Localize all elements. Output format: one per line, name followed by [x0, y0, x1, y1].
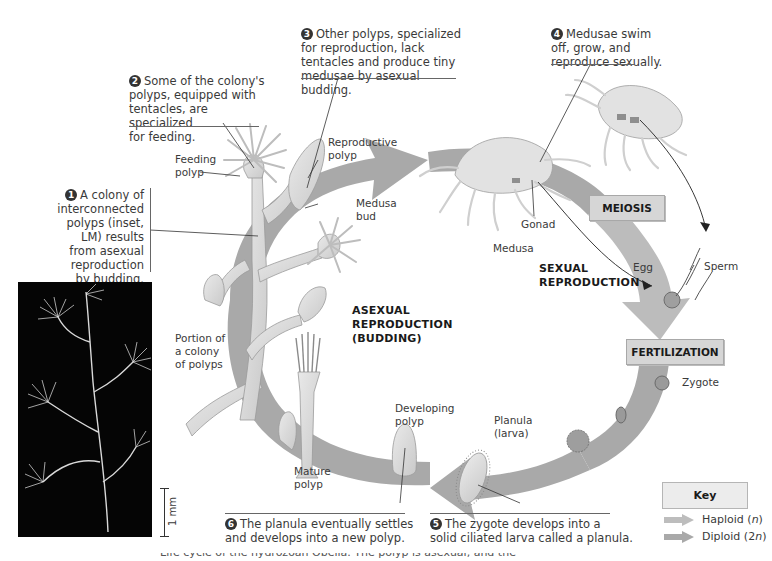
caption-step-3: 3Other polyps, specialized for reproduct… — [301, 27, 471, 97]
colony-micrograph-inset — [18, 282, 152, 537]
figure-caption-partial: Life cycle of the hydrozoan Obelia. The … — [160, 553, 600, 561]
label-medusa-bud: Medusa bud — [356, 197, 397, 223]
mature-polyp-tentacles — [296, 332, 320, 372]
micrograph-image — [18, 282, 152, 537]
caption-rule — [301, 78, 456, 79]
caption-step-2: 2Some of the colony's polyps, equipped w… — [129, 74, 269, 144]
caption-rule — [551, 64, 634, 65]
label-portion-colony: Portion of a colony of polyps — [175, 332, 225, 371]
caption-rule — [430, 513, 610, 514]
scale-bar — [164, 488, 165, 536]
caption-rule — [150, 188, 151, 272]
stage-fertilization: FERTILIZATION — [626, 339, 724, 365]
step-number-badge: 1 — [65, 189, 77, 201]
phase-asexual-reproduction: ASEXUAL REPRODUCTION (BUDDING) — [352, 304, 453, 346]
label-developing-polyp: Developing polyp — [395, 402, 454, 428]
step-number-badge: 2 — [129, 75, 141, 87]
diploid-symbol: (2n) — [744, 530, 767, 543]
label-planula: Planula (larva) — [494, 414, 532, 440]
step-number-badge: 4 — [551, 28, 563, 40]
label-feeding-polyp: Feeding polyp — [175, 153, 216, 179]
caption-step-4: 4Medusae swim off, grow, and reproduce s… — [551, 27, 671, 69]
step-number-badge: 6 — [225, 518, 237, 530]
label-sperm: Sperm — [704, 260, 738, 273]
scale-bar-label: 1 mm — [166, 497, 179, 526]
haploid-symbol: (n) — [747, 513, 763, 526]
key-title: Key — [662, 482, 748, 509]
key-item-diploid: Diploid (2n) — [664, 530, 766, 543]
caption-step-6: 6The planula eventually settles and deve… — [225, 517, 425, 545]
label-medusa: Medusa — [493, 242, 534, 255]
label-gonad: Gonad — [521, 218, 555, 231]
step-number-badge: 5 — [430, 518, 442, 530]
step-number-badge: 3 — [301, 28, 313, 40]
caption-rule — [129, 126, 259, 127]
phase-sexual-reproduction: SEXUAL REPRODUCTION — [539, 262, 640, 290]
caption-step-1: 1A colony of interconnected polyps (inse… — [22, 188, 144, 286]
label-mature-polyp: Mature polyp — [294, 465, 331, 491]
scale-bar-cap — [160, 488, 169, 489]
key-item-haploid: Haploid (n) — [664, 513, 763, 526]
label-zygote: Zygote — [682, 376, 719, 389]
diploid-arrow-icon — [664, 531, 694, 543]
zygote-cell — [655, 376, 669, 390]
label-reproductive-polyp: Reproductive polyp — [328, 136, 397, 162]
caption-step-5: 5The zygote develops into a solid ciliat… — [430, 517, 660, 545]
sperm-cells — [676, 248, 712, 300]
caption-rule — [225, 513, 405, 514]
haploid-arrow-icon — [664, 514, 694, 526]
scale-bar-cap — [160, 536, 169, 537]
stage-meiosis: MEIOSIS — [589, 195, 665, 221]
